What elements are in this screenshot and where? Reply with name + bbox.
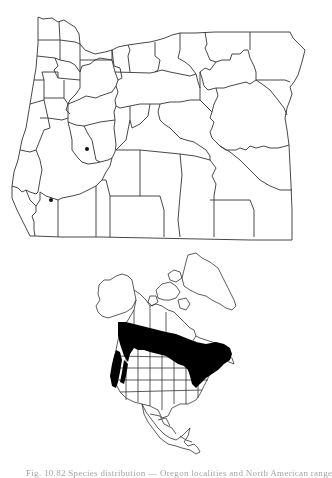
mexico [142, 404, 200, 454]
locality-dot-2 [49, 198, 53, 202]
oregon-outline [12, 17, 305, 240]
figure-caption: Fig. 10.82 Species distribution — Oregon… [26, 468, 332, 478]
alaska [96, 274, 136, 318]
locality-dot-1 [85, 147, 89, 151]
oregon-map [12, 17, 305, 240]
species-range [110, 322, 232, 388]
greenland [182, 253, 236, 310]
